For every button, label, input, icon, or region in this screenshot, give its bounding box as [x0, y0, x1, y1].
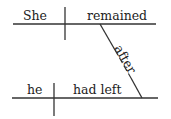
sentence-diagram: She remained after he had left [0, 0, 171, 119]
subordinate-predicate-text: had left [73, 82, 122, 97]
connector-line-bottom [131, 78, 142, 98]
subordinate-subject-text: he [27, 82, 42, 97]
connector-text: after [111, 42, 139, 76]
main-predicate-text: remained [87, 8, 147, 23]
main-subject-text: She [23, 8, 47, 23]
connector-line-top [100, 24, 115, 50]
